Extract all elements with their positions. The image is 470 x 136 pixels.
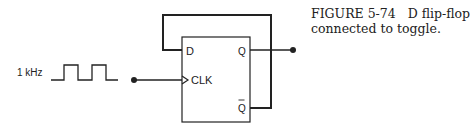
caption-number: FIGURE 5-74 — [311, 6, 396, 21]
pin-clk-label: CLK — [191, 74, 213, 86]
caption-line2: connected to toggle. — [311, 21, 441, 36]
clock-frequency-label: 1 kHz — [17, 67, 43, 78]
caption-line1: D flip-flop — [408, 6, 470, 21]
pin-q-label: Q — [238, 46, 246, 57]
feedback-wire — [163, 15, 271, 108]
pin-d-label: D — [186, 45, 194, 57]
pin-qbar-label: Q — [238, 103, 246, 114]
clock-waveform — [51, 65, 118, 80]
figure-caption: FIGURE 5-74 D flip-flop connected to tog… — [311, 6, 470, 36]
clock-edge-triangle-icon — [182, 76, 188, 84]
q-output-node — [290, 47, 296, 53]
